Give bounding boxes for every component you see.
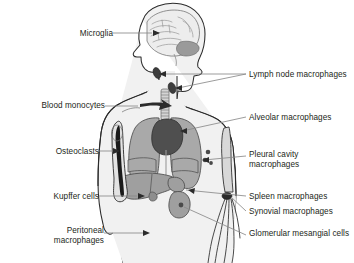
stomach bbox=[128, 158, 156, 172]
label-spleen-macrophages: Spleen macrophages bbox=[249, 192, 353, 202]
glomerulus-marker bbox=[179, 203, 184, 208]
label-kupffer-cells: Kupffer cells bbox=[22, 192, 99, 202]
cerebellum bbox=[176, 41, 199, 56]
label-osteoclasts: Osteoclasts bbox=[25, 147, 99, 157]
label-alveolar-macrophages: Alveolar macrophages bbox=[249, 113, 353, 123]
label-synovial-macrophages: Synovial macrophages bbox=[249, 207, 353, 217]
anatomical-diagram: Microglia Blood monocytes Osteoclasts Ku… bbox=[0, 0, 354, 263]
label-blood-monocytes: Blood monocytes bbox=[23, 101, 105, 111]
label-glomerular-mesangial-cells: Glomerular mesangial cells bbox=[249, 229, 353, 239]
gallbladder bbox=[149, 192, 157, 201]
label-pleural-cavity-macrophages: Pleural cavity macrophages bbox=[249, 150, 349, 169]
label-peritoneal-macrophages: Peritoneal macrophages bbox=[18, 226, 104, 245]
body-illustration bbox=[0, 0, 354, 263]
stomach-right bbox=[172, 158, 198, 173]
label-microglia: Microglia bbox=[44, 29, 113, 39]
label-lymph-node-macrophages: Lymph node macrophages bbox=[249, 70, 349, 80]
